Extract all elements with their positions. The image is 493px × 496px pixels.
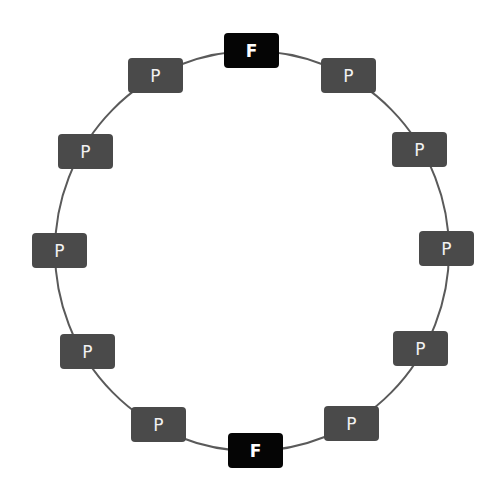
node-p: P xyxy=(321,58,376,93)
ring-circle xyxy=(55,51,449,451)
node-p: P xyxy=(32,233,87,268)
node-f-top: F xyxy=(224,33,279,68)
node-p: P xyxy=(393,331,448,366)
node-p: P xyxy=(419,231,474,266)
node-p: P xyxy=(392,132,447,167)
node-label: P xyxy=(441,239,451,259)
node-p: P xyxy=(131,407,186,442)
node-label: P xyxy=(414,140,424,160)
node-p: P xyxy=(60,334,115,369)
node-label: F xyxy=(246,41,258,61)
node-label: P xyxy=(343,66,353,86)
node-p: P xyxy=(324,406,379,441)
node-label: P xyxy=(150,66,160,86)
node-label: P xyxy=(82,342,92,362)
node-label: P xyxy=(415,339,425,359)
node-label: F xyxy=(250,441,262,461)
node-f-bottom: F xyxy=(228,433,283,468)
node-p: P xyxy=(58,134,113,169)
node-p: P xyxy=(128,58,183,93)
node-label: P xyxy=(346,414,356,434)
node-label: P xyxy=(153,415,163,435)
node-label: P xyxy=(80,142,90,162)
node-label: P xyxy=(54,241,64,261)
